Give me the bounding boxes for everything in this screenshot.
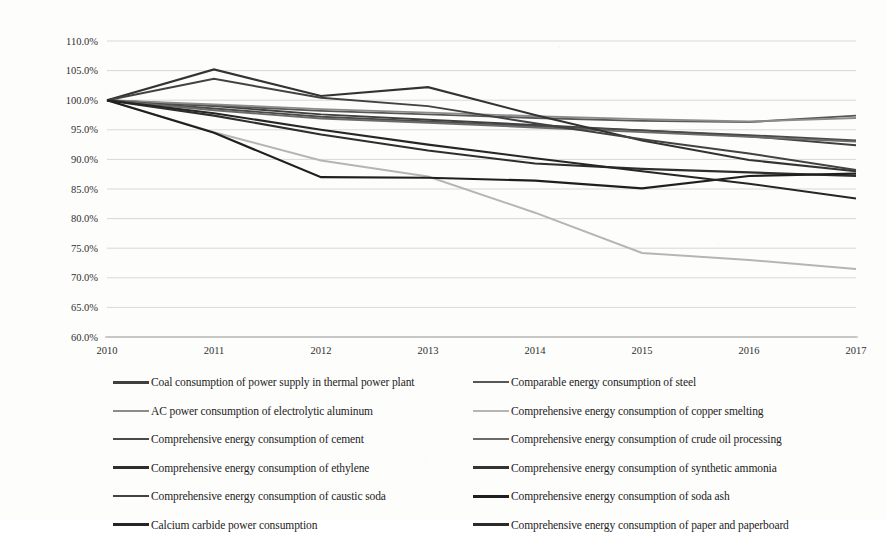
legend-item-label: Comprehensive energy consumption of crud…: [511, 433, 782, 445]
legend-swatch-icon: [473, 495, 509, 498]
legend-item-label: Comprehensive energy consumption of ceme…: [151, 433, 364, 445]
legend-item-label: Comprehensive energy consumption of soda…: [511, 490, 730, 502]
y-axis-tick-label: 100.0%: [66, 95, 99, 106]
legend-swatch-icon: [473, 381, 509, 383]
legend-item[interactable]: Comprehensive energy consumption of copp…: [473, 397, 887, 426]
x-axis-tick-label: 2015: [632, 345, 653, 356]
legend-swatch-icon: [113, 523, 149, 526]
legend-swatch-icon: [473, 466, 509, 469]
legend-item[interactable]: Comprehensive energy consumption of synt…: [473, 454, 887, 483]
y-axis-tick-label: 75.0%: [71, 243, 98, 254]
line-chart-svg: 110.0%105.0%100.0%95.0%90.0%85.0%80.0%75…: [0, 0, 887, 365]
y-axis-tick-label: 90.0%: [71, 154, 98, 165]
legend-item-label: AC power consumption of electrolytic alu…: [151, 405, 373, 417]
y-axis-tick-labels: 110.0%105.0%100.0%95.0%90.0%85.0%80.0%75…: [66, 36, 99, 343]
legend-item-label: Comprehensive energy consumption of caus…: [151, 490, 386, 502]
legend-item-label: Coal consumption of power supply in ther…: [151, 376, 414, 388]
legend-item-label: Comprehensive energy consumption of copp…: [511, 405, 763, 417]
legend-item[interactable]: Coal consumption of power supply in ther…: [113, 368, 463, 397]
series-group: [107, 69, 856, 269]
legend-item[interactable]: AC power consumption of electrolytic alu…: [113, 397, 463, 426]
legend-swatch-icon: [113, 381, 149, 384]
x-axis-tick-label: 2010: [97, 345, 118, 356]
x-axis-tick-label: 2011: [204, 345, 225, 356]
legend-item-label: Comprehensive energy consumption of synt…: [511, 462, 777, 474]
y-axis-tick-label: 105.0%: [66, 65, 99, 76]
legend-item[interactable]: Comprehensive energy consumption of soda…: [473, 482, 887, 511]
legend-item[interactable]: Comprehensive energy consumption of caus…: [113, 482, 463, 511]
y-axis-tick-label: 70.0%: [71, 272, 98, 283]
legend-item[interactable]: Comprehensive energy consumption of crud…: [473, 425, 887, 454]
x-axis-tick-label: 2012: [311, 345, 332, 356]
legend-item-label: Calcium carbide power consumption: [151, 519, 317, 531]
legend-swatch-icon: [473, 523, 509, 526]
y-axis-tick-label: 110.0%: [66, 36, 98, 47]
legend-item-label: Comprehensive energy consumption of pape…: [511, 519, 789, 531]
gridlines-group: [107, 41, 856, 337]
legend-swatch-icon: [473, 438, 509, 440]
x-axis-tick-label: 2014: [525, 345, 547, 356]
legend-item-label: Comprehensive energy consumption of ethy…: [151, 462, 369, 474]
y-axis-tick-label: 60.0%: [71, 332, 98, 343]
plot-area: 110.0%105.0%100.0%95.0%90.0%85.0%80.0%75…: [0, 0, 887, 365]
x-axis-tick-label: 2017: [846, 345, 867, 356]
legend-item-label: Comparable energy consumption of steel: [511, 376, 696, 388]
legend-swatch-icon: [113, 410, 149, 412]
legend-swatch-icon: [113, 438, 149, 440]
y-axis-tick-label: 65.0%: [71, 302, 98, 313]
chart-legend: Coal consumption of power supply in ther…: [0, 368, 887, 493]
legend-item[interactable]: Comprehensive energy consumption of pape…: [473, 511, 887, 536]
legend-swatch-icon: [113, 466, 149, 469]
x-axis-tick-labels: 20102011201220132014201520162017: [97, 345, 867, 356]
x-axis-tick-label: 2013: [418, 345, 439, 356]
series-line-7: [107, 69, 856, 171]
y-axis-tick-label: 80.0%: [71, 213, 98, 224]
legend-item[interactable]: Comprehensive energy consumption of ethy…: [113, 454, 463, 483]
y-axis-tick-label: 85.0%: [71, 184, 98, 195]
legend-item[interactable]: Calcium carbide power consumption: [113, 511, 463, 536]
legend-item[interactable]: Comprehensive energy consumption of ceme…: [113, 425, 463, 454]
legend-swatch-icon: [113, 495, 149, 497]
legend-swatch-icon: [473, 410, 509, 412]
legend-item[interactable]: Comparable energy consumption of steel: [473, 368, 887, 397]
x-axis-tick-label: 2016: [739, 345, 760, 356]
y-axis-tick-label: 95.0%: [71, 124, 98, 135]
